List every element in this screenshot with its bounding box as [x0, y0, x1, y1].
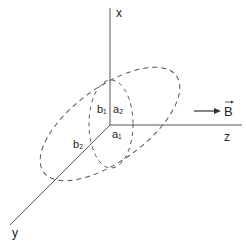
b1-label: b₁ [97, 103, 107, 115]
b2-label: b₂ [73, 138, 83, 150]
field-label: B [224, 104, 233, 119]
a1-label: a₁ [112, 128, 122, 140]
arrowhead-icon [214, 108, 221, 114]
small-ellipse [89, 80, 133, 168]
y-axis [10, 125, 110, 225]
y-axis-label: y [12, 226, 18, 240]
x-axis-label: x [116, 6, 122, 20]
magnetic-field-indicator: B [194, 101, 234, 120]
a2-label: a₂ [113, 103, 123, 115]
ellipsoid-diagram: x z y b₁ a₂ a₁ b₂ B [0, 0, 246, 246]
z-axis-label: z [224, 130, 230, 144]
